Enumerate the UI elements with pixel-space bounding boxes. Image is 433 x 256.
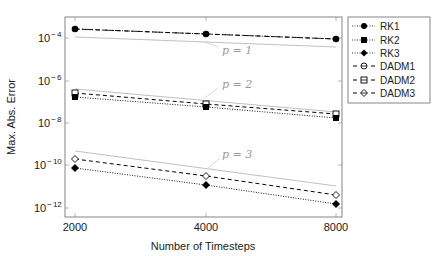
x-tick-label: 8000 (324, 221, 348, 233)
circle-filled-icon (361, 23, 367, 29)
svg-text:RK2: RK2 (380, 35, 400, 46)
y-tick-label: 10−10 (34, 157, 62, 171)
series-rk2-markers (72, 94, 339, 121)
series-rk3-markers (71, 164, 340, 208)
svg-text:DADM1: DADM1 (380, 61, 415, 72)
plot-frame (65, 17, 342, 217)
y-tick-labels: 10−4 10−6 10−8 10−10 10−12 (34, 30, 62, 214)
series-dadm3-markers (72, 156, 340, 199)
y-tick-label: 10−6 (38, 73, 62, 87)
legend: RK1 RK2 RK3 DADM1 DADM2 (348, 17, 430, 103)
y-tick-label: 10−8 (38, 115, 62, 129)
y-tick-label: 10−12 (34, 200, 62, 214)
x-axis-label: Number of Timesteps (151, 240, 256, 252)
svg-text:RK3: RK3 (380, 48, 400, 59)
square-filled-icon (361, 37, 367, 43)
y-tick-label: 10−4 (38, 30, 62, 44)
reference-lines (75, 37, 336, 186)
annotation-p3: p = 3 (222, 148, 252, 161)
svg-text:RK1: RK1 (380, 21, 400, 32)
x-tick-label: 4000 (194, 221, 218, 233)
x-tick-label: 2000 (63, 221, 87, 233)
annotation-p1: p = 1 (222, 44, 252, 57)
y-axis-ticks (65, 38, 342, 208)
svg-text:DADM3: DADM3 (380, 88, 415, 99)
series-dadm2-markers (72, 90, 339, 117)
reference-line-p3 (75, 151, 336, 186)
series-rk1-markers (72, 26, 340, 43)
y-axis-label: Max. Abs. Error (5, 79, 17, 155)
error-convergence-chart: 10−4 10−6 10−8 10−10 10−12 2000 4000 800… (0, 0, 433, 256)
x-tick-labels: 2000 4000 8000 (63, 221, 348, 233)
annotation-p2: p = 2 (222, 78, 252, 91)
svg-text:DADM2: DADM2 (380, 75, 415, 86)
